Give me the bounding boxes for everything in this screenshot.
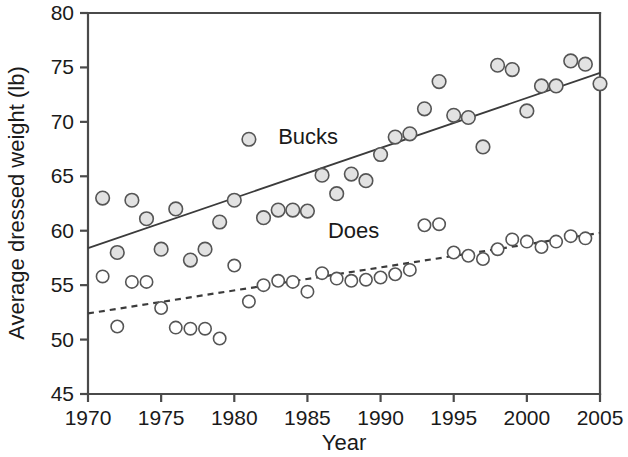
data-point-bucks <box>125 193 139 207</box>
data-point-does <box>272 275 284 287</box>
data-point-does <box>184 322 196 334</box>
data-point-bucks <box>301 204 315 218</box>
data-point-bucks <box>432 75 446 89</box>
y-tick-label: 70 <box>51 110 74 133</box>
data-point-bucks <box>345 167 359 181</box>
data-point-bucks <box>593 77 607 91</box>
x-tick-label: 2005 <box>577 406 624 429</box>
data-point-does <box>199 322 211 334</box>
data-point-does <box>448 246 460 258</box>
y-tick-label: 80 <box>51 1 74 24</box>
data-point-bucks <box>271 203 285 217</box>
y-axis-title: Average dressed weight (lb) <box>4 66 29 340</box>
data-point-does <box>316 267 328 279</box>
data-point-does <box>287 276 299 288</box>
data-point-does <box>477 253 489 265</box>
data-point-bucks <box>154 242 168 256</box>
x-tick-label: 1990 <box>357 406 404 429</box>
data-point-bucks <box>198 242 212 256</box>
x-tick-label: 1980 <box>211 406 258 429</box>
data-point-bucks <box>330 187 344 201</box>
data-point-does <box>155 302 167 314</box>
data-point-does <box>389 268 401 280</box>
y-tick-label: 75 <box>51 55 74 78</box>
data-point-bucks <box>227 193 241 207</box>
x-tick-label: 2000 <box>503 406 550 429</box>
data-point-does <box>418 219 430 231</box>
y-tick-label: 45 <box>51 382 74 405</box>
data-point-does <box>126 276 138 288</box>
x-tick-label: 1970 <box>65 406 112 429</box>
data-point-bucks <box>374 148 388 162</box>
data-point-does <box>213 332 225 344</box>
data-point-bucks <box>388 130 402 144</box>
data-point-bucks <box>447 109 461 123</box>
x-tick-label: 1975 <box>138 406 185 429</box>
data-point-does <box>404 264 416 276</box>
data-point-does <box>506 233 518 245</box>
data-point-bucks <box>462 111 476 125</box>
series-label-bucks: Bucks <box>278 124 338 149</box>
data-point-bucks <box>213 215 227 229</box>
data-point-bucks <box>110 246 124 260</box>
data-point-does <box>140 276 152 288</box>
y-tick-label: 60 <box>51 219 74 242</box>
data-point-does <box>433 218 445 230</box>
data-point-bucks <box>418 102 432 116</box>
chart-figure: 4550556065707580 19701975198019851990199… <box>0 0 628 457</box>
y-tick-label: 65 <box>51 164 74 187</box>
data-point-bucks <box>169 202 183 216</box>
plot-axes <box>88 13 600 394</box>
data-point-bucks <box>579 57 593 71</box>
series-label-does: Does <box>328 218 379 243</box>
x-tick-labels: 19701975198019851990199520002005 <box>65 406 624 429</box>
data-point-bucks <box>359 174 373 188</box>
data-point-bucks <box>96 191 110 205</box>
data-point-bucks <box>476 140 490 154</box>
data-point-does <box>301 285 313 297</box>
data-point-does <box>228 259 240 271</box>
data-point-bucks <box>549 79 563 93</box>
data-point-bucks <box>564 54 578 68</box>
data-point-does <box>579 232 591 244</box>
data-point-bucks <box>242 132 256 146</box>
data-point-bucks <box>491 58 505 72</box>
data-point-does <box>374 271 386 283</box>
data-point-does <box>111 320 123 332</box>
data-point-does <box>243 295 255 307</box>
data-point-bucks <box>535 79 549 93</box>
data-point-bucks <box>257 211 271 225</box>
data-point-does <box>330 272 342 284</box>
data-point-does <box>96 270 108 282</box>
axis-ticks <box>80 13 600 402</box>
data-point-bucks <box>140 212 154 226</box>
data-point-does <box>360 274 372 286</box>
data-point-does <box>170 321 182 333</box>
data-point-does <box>345 275 357 287</box>
y-tick-label: 50 <box>51 328 74 351</box>
y-tick-labels: 4550556065707580 <box>51 1 74 405</box>
data-point-bucks <box>184 253 198 267</box>
data-point-does <box>257 279 269 291</box>
scatter-plot: 4550556065707580 19701975198019851990199… <box>0 0 628 457</box>
data-point-bucks <box>286 203 300 217</box>
data-point-bucks <box>505 63 519 77</box>
x-tick-label: 1995 <box>430 406 477 429</box>
y-tick-label: 55 <box>51 273 74 296</box>
data-point-bucks <box>315 168 329 182</box>
data-point-bucks <box>520 104 534 118</box>
data-point-does <box>491 243 503 255</box>
data-point-does <box>521 235 533 247</box>
data-point-does <box>565 230 577 242</box>
x-axis-title: Year <box>322 430 366 455</box>
data-point-does <box>535 241 547 253</box>
data-point-does <box>462 250 474 262</box>
data-point-bucks <box>403 127 417 141</box>
data-point-does <box>550 235 562 247</box>
x-tick-label: 1985 <box>284 406 331 429</box>
